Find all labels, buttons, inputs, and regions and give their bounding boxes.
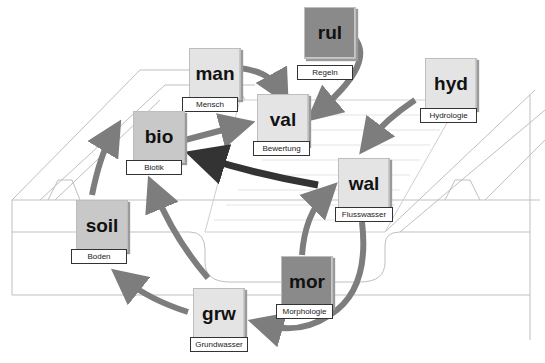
node-man[interactable]: man: [189, 48, 241, 100]
label-bewertung: Bewertung: [253, 141, 310, 156]
label-mensch: Mensch: [182, 97, 238, 112]
node-bio-code: bio: [145, 126, 174, 148]
arrow-mor-wal: [302, 195, 325, 255]
arrow-soil-bio: [92, 135, 112, 195]
label-morphologie: Morphologie: [276, 304, 333, 319]
node-mor[interactable]: mor: [281, 256, 333, 308]
node-grw-code: grw: [202, 303, 236, 325]
node-mor-code: mor: [289, 271, 325, 293]
node-bio[interactable]: bio: [133, 111, 185, 163]
node-grw[interactable]: grw: [193, 288, 245, 340]
label-flusswasser: Flusswasser: [335, 207, 393, 222]
node-val-code: val: [270, 109, 296, 131]
node-hyd-code: hyd: [434, 73, 468, 95]
node-soil[interactable]: soil: [76, 200, 128, 252]
river-landscape-diagram: rul Regeln man Mensch val Bewertung hyd …: [0, 0, 545, 363]
terrain-background: [0, 0, 545, 363]
node-hyd[interactable]: hyd: [425, 58, 477, 110]
arrow-wal-bio: [205, 158, 318, 185]
arrow-grw-soil: [125, 280, 188, 312]
node-val[interactable]: val: [257, 94, 309, 146]
label-boden: Boden: [71, 249, 127, 264]
label-hydrologie: Hydrologie: [420, 108, 477, 123]
node-rul[interactable]: rul: [304, 7, 356, 59]
node-rul-code: rul: [318, 22, 342, 44]
node-man-code: man: [195, 63, 234, 85]
arrow-man-val: [240, 68, 280, 90]
label-regeln: Regeln: [297, 65, 353, 80]
label-grundwasser: Grundwasser: [190, 337, 248, 352]
node-wal[interactable]: wal: [338, 158, 390, 210]
node-wal-code: wal: [349, 173, 380, 195]
arrow-hyd-wal: [370, 100, 415, 140]
node-soil-code: soil: [86, 215, 119, 237]
label-biotik: Biotik: [126, 160, 182, 175]
